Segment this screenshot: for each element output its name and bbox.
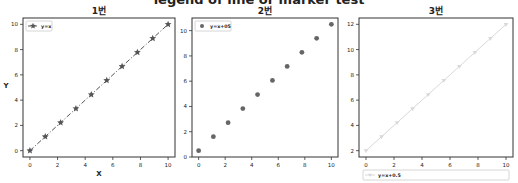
y-tick-label: 8 xyxy=(15,47,19,53)
y-tick-label: 0 xyxy=(15,148,19,154)
series-line xyxy=(30,24,168,150)
x-tick-label: 8 xyxy=(139,162,143,168)
x-tick-label: 0 xyxy=(197,162,201,168)
circle-marker xyxy=(329,22,334,27)
circle-marker xyxy=(211,134,216,139)
y-tick-label: 2 xyxy=(184,129,188,135)
y-tick-label: 0 xyxy=(184,154,188,160)
subplot-title: 2번 xyxy=(258,5,272,16)
x-tick-label: 4 xyxy=(83,162,87,168)
subplot-3: 3번024681024681012y=x+0.5 xyxy=(347,5,513,180)
circle-marker xyxy=(196,148,201,153)
circle-marker xyxy=(240,106,245,111)
circle-marker xyxy=(299,50,304,55)
y-tick-label: 12 xyxy=(347,21,354,27)
x-tick-label: 10 xyxy=(503,162,510,168)
y-tick-label: 4 xyxy=(184,103,188,109)
x-tick-label: 8 xyxy=(303,162,307,168)
y-tick-label: 8 xyxy=(184,53,188,59)
figure: legend of line or marker test 1번02468100… xyxy=(0,0,518,183)
x-tick-label: 6 xyxy=(448,162,452,168)
subplot-title: 1번 xyxy=(92,5,106,16)
series-line xyxy=(366,24,506,150)
circle-marker xyxy=(314,36,319,41)
triangle-marker xyxy=(364,149,369,153)
star-marker xyxy=(73,105,80,112)
circle-marker xyxy=(226,120,231,125)
subplot-title: 3번 xyxy=(429,5,443,16)
legend: y=x+05 xyxy=(195,21,231,31)
y-tick-label: 10 xyxy=(11,21,18,27)
x-tick-label: 2 xyxy=(56,162,60,168)
circle-marker xyxy=(270,78,275,83)
x-tick-label: 2 xyxy=(392,162,396,168)
x-tick-label: 6 xyxy=(111,162,115,168)
subplot-1: 1번02468100246810XYy=x xyxy=(2,5,175,178)
x-tick-label: 4 xyxy=(250,162,254,168)
y-tick-label: 4 xyxy=(15,97,19,103)
y-tick-label: 2 xyxy=(15,122,19,128)
circle-marker xyxy=(285,64,290,69)
y-tick-label: 6 xyxy=(15,72,19,78)
legend: y=x xyxy=(26,21,52,31)
x-tick-label: 6 xyxy=(277,162,281,168)
y-tick-label: 6 xyxy=(184,78,188,84)
x-tick-label: 4 xyxy=(420,162,424,168)
x-tick-label: 0 xyxy=(28,162,32,168)
y-tick-label: 8 xyxy=(351,72,355,78)
star-marker xyxy=(57,119,64,126)
x-tick-label: 8 xyxy=(476,162,480,168)
x-tick-label: 0 xyxy=(364,162,368,168)
subplot-2: 2번02468100246810y=x+05 xyxy=(180,5,338,168)
x-tick-label: 10 xyxy=(165,162,172,168)
y-tick-label: 10 xyxy=(180,28,187,34)
circle-marker xyxy=(255,92,260,97)
x-tick-label: 10 xyxy=(328,162,335,168)
legend-circle-icon xyxy=(200,24,204,28)
legend: y=x+0.5 xyxy=(363,170,509,180)
x-axis-label: X xyxy=(96,170,102,178)
y-tick-label: 4 xyxy=(351,122,355,128)
y-tick-label: 6 xyxy=(351,97,355,103)
y-axis-label: Y xyxy=(2,82,9,90)
y-tick-label: 10 xyxy=(347,47,354,53)
x-tick-label: 2 xyxy=(223,162,227,168)
y-tick-label: 2 xyxy=(351,148,355,154)
